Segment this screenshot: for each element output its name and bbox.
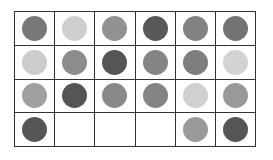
circle-dot	[143, 83, 168, 108]
circle-dot	[183, 50, 208, 75]
grid-cell-r4-c6	[216, 113, 256, 147]
grid-cell-r2-c6	[216, 46, 256, 80]
grid-cell-r3-c6	[216, 80, 256, 114]
grid-cell-r3-c1	[15, 80, 55, 114]
grid-cell-r3-c2	[55, 80, 95, 114]
circle-dot	[102, 50, 127, 75]
grid-cell-r4-c5	[176, 113, 216, 147]
grid-cell-r3-c5	[176, 80, 216, 114]
grid-cell-r1-c4	[136, 12, 176, 46]
circle-dot	[223, 16, 248, 41]
circle-dot	[143, 16, 168, 41]
grid-cell-r2-c1	[15, 46, 55, 80]
circle-dot	[22, 50, 47, 75]
circle-dot	[102, 16, 127, 41]
circle-dot	[183, 16, 208, 41]
circle-dot	[183, 83, 208, 108]
circle-dot	[102, 83, 127, 108]
grid-cell-r1-c6	[216, 12, 256, 46]
grid-cell-r4-c3	[95, 113, 135, 147]
circle-dot	[22, 83, 47, 108]
grid-cell-r2-c4	[136, 46, 176, 80]
grid-cell-r4-c1	[15, 113, 55, 147]
circle-dot	[22, 117, 47, 142]
circle-dot	[223, 117, 248, 142]
circle-dot	[22, 16, 47, 41]
circle-dot	[62, 50, 87, 75]
grid-cell-r1-c5	[176, 12, 216, 46]
circle-dot	[62, 83, 87, 108]
grid-cell-r1-c1	[15, 12, 55, 46]
dot-grid	[14, 11, 256, 147]
grid-cell-r3-c4	[136, 80, 176, 114]
circle-dot	[223, 83, 248, 108]
grid-cell-r1-c2	[55, 12, 95, 46]
grid-cell-r2-c2	[55, 46, 95, 80]
grid-cell-r2-c5	[176, 46, 216, 80]
grid-cell-r3-c3	[95, 80, 135, 114]
circle-dot	[62, 16, 87, 41]
grid-cell-r1-c3	[95, 12, 135, 46]
circle-dot	[223, 50, 248, 75]
circle-dot	[183, 117, 208, 142]
circle-dot	[143, 50, 168, 75]
grid-cell-r4-c2	[55, 113, 95, 147]
grid-cell-r4-c4	[136, 113, 176, 147]
grid-cell-r2-c3	[95, 46, 135, 80]
